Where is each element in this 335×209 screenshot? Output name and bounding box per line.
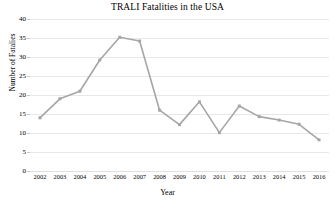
data-point-marker	[298, 123, 301, 126]
x-axis-title: Year	[0, 188, 335, 197]
x-axis-tick-label: 2010	[193, 173, 206, 180]
y-axis-tick-mark	[27, 171, 30, 172]
data-point-marker	[218, 131, 221, 134]
gridline	[30, 171, 329, 172]
data-point-marker	[98, 59, 101, 62]
data-point-marker	[198, 100, 201, 103]
x-axis-tick-label: 2014	[273, 173, 286, 180]
x-axis-tick-label: 2008	[153, 173, 166, 180]
y-axis-tick-label: 15	[19, 110, 26, 118]
data-point-marker	[258, 115, 261, 118]
y-axis-tick-label: 35	[19, 34, 26, 42]
plot-area: 4035302520151050 20022003200420052006200…	[30, 19, 329, 171]
chart-container: TRALI Fatalities in the USA Number of Fa…	[0, 0, 335, 209]
y-axis-title: Number of Fatalies	[8, 15, 17, 111]
y-axis-tick-label: 0	[23, 167, 27, 175]
x-axis-tick-label: 2011	[213, 173, 226, 180]
y-axis-tick-label: 5	[23, 148, 27, 156]
y-axis-tick-label: 30	[19, 53, 26, 61]
data-point-marker	[58, 97, 61, 100]
y-axis-tick-label: 25	[19, 72, 26, 80]
data-point-marker	[178, 123, 181, 126]
data-series-line	[30, 19, 329, 171]
x-axis-tick-label: 2004	[73, 173, 86, 180]
y-axis-tick-label: 10	[19, 129, 26, 137]
data-point-marker	[138, 40, 141, 43]
data-point-marker	[278, 119, 281, 122]
x-axis-tick-label: 2009	[173, 173, 186, 180]
data-point-marker	[158, 109, 161, 112]
x-axis-tick-label: 2005	[93, 173, 106, 180]
x-axis-tick-label: 2015	[293, 173, 306, 180]
data-point-marker	[318, 138, 321, 141]
data-point-marker	[38, 116, 41, 119]
x-axis-tick-label: 2016	[313, 173, 326, 180]
data-point-marker	[118, 36, 121, 39]
x-axis-tick-label: 2003	[54, 173, 67, 180]
y-axis-tick-label: 40	[19, 15, 26, 23]
x-axis-tick-label: 2007	[133, 173, 146, 180]
data-point-marker	[238, 105, 241, 108]
data-point-marker	[78, 90, 81, 93]
x-axis-tick-label: 2012	[233, 173, 246, 180]
y-axis-tick-label: 20	[19, 91, 26, 99]
x-axis-tick-label: 2002	[34, 173, 47, 180]
chart-title: TRALI Fatalities in the USA	[0, 2, 335, 12]
x-axis-tick-label: 2013	[253, 173, 266, 180]
x-axis-tick-label: 2006	[113, 173, 126, 180]
